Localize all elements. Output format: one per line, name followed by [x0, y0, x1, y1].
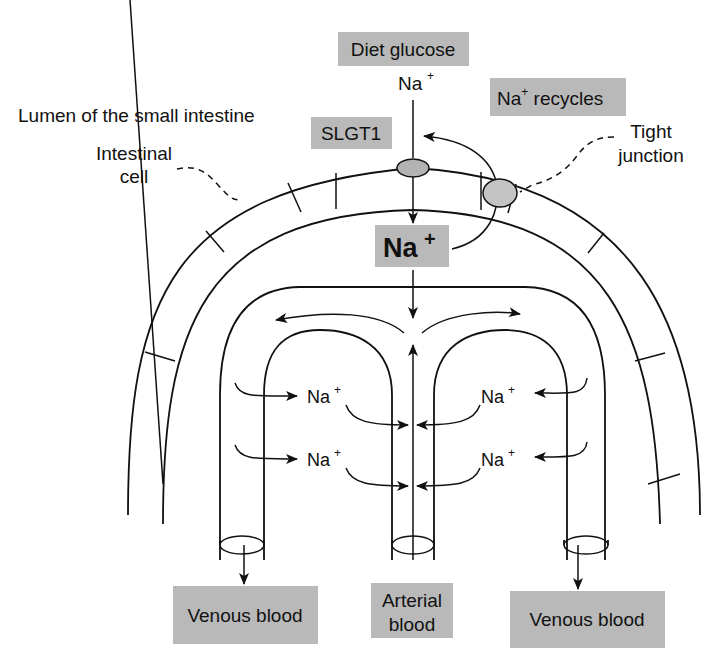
- svg-text:Na: Na: [398, 73, 423, 94]
- capillary-loops: [220, 287, 608, 560]
- left-lower-to-center-arrow: [346, 468, 408, 486]
- svg-text:junction: junction: [617, 145, 684, 166]
- venous-blood-left-box: Venous blood: [173, 586, 318, 644]
- svg-text:+: +: [508, 446, 515, 460]
- intestinal-cell-leader: [177, 168, 240, 200]
- capillary-na-ion-right-upper: Na +: [481, 383, 515, 407]
- svg-text:+: +: [334, 383, 341, 397]
- left-venous-opening: [220, 536, 264, 554]
- capillary-na-ion-right-lower: Na +: [481, 446, 515, 470]
- intestinal-cell-label: Intestinal cell: [96, 143, 172, 187]
- svg-text:+: +: [424, 228, 436, 250]
- svg-text:Arterial: Arterial: [382, 590, 442, 611]
- svg-text:Na+ recycles: Na+ recycles: [497, 85, 603, 109]
- arterial-blood-box: Arterial blood: [371, 583, 453, 638]
- svg-text:cell: cell: [120, 166, 149, 187]
- right-lower-to-center-arrow: [417, 468, 480, 486]
- venous-blood-right-box: Venous blood: [510, 591, 665, 648]
- tight-junction-ellipse: [483, 179, 517, 207]
- left-upper-in-arrow: [235, 383, 297, 396]
- svg-text:Na: Na: [383, 233, 418, 263]
- lumen-label: Lumen of the small intestine: [18, 105, 255, 126]
- left-inner-capillary: [264, 330, 392, 560]
- tight-junction-label: Tight junction: [617, 121, 684, 166]
- na-big-box: Na +: [375, 225, 449, 267]
- sodium-recycling-diagram: Diet glucose Na + Na+ recycles SLGT1 Lum…: [0, 0, 713, 667]
- slgt1-label: SLGT1: [321, 123, 381, 144]
- svg-text:Venous blood: Venous blood: [529, 609, 644, 630]
- svg-text:Na: Na: [307, 450, 331, 470]
- diet-glucose-box: Diet glucose: [338, 32, 469, 66]
- epithelium-outer-edge: [128, 168, 700, 515]
- slgt1-transporter: [397, 159, 429, 177]
- svg-text:Intestinal: Intestinal: [96, 143, 172, 164]
- na-recycles-box: Na+ recycles: [490, 78, 626, 116]
- left-upper-to-center-arrow: [346, 405, 408, 425]
- right-upper-to-center-arrow: [417, 405, 480, 425]
- right-venous-opening: [564, 536, 608, 554]
- right-lower-in-arrow: [535, 442, 587, 457]
- capillary-na-ion-left-upper: Na +: [307, 383, 341, 407]
- right-inner-capillary: [434, 330, 567, 560]
- slgt1-box: SLGT1: [311, 117, 392, 149]
- branch-left-arrow: [276, 314, 404, 333]
- tight-junction-leader: [520, 137, 614, 192]
- na-entry-label: Na +: [398, 69, 434, 94]
- svg-text:+: +: [334, 446, 341, 460]
- capillary-na-ion-left-lower: Na +: [307, 446, 341, 470]
- svg-text:+: +: [508, 383, 515, 397]
- svg-text:+: +: [427, 69, 434, 83]
- left-lower-in-arrow: [235, 445, 297, 459]
- svg-text:Tight: Tight: [630, 121, 672, 142]
- svg-text:blood: blood: [389, 614, 436, 635]
- right-upper-in-arrow: [535, 378, 587, 393]
- diagram-stage: Diet glucose Na + Na+ recycles SLGT1 Lum…: [0, 0, 713, 667]
- svg-text:Na: Na: [481, 450, 505, 470]
- svg-text:Na: Na: [481, 387, 505, 407]
- svg-text:Venous blood: Venous blood: [187, 605, 302, 626]
- svg-text:Na: Na: [307, 387, 331, 407]
- diet-glucose-label: Diet glucose: [351, 39, 456, 60]
